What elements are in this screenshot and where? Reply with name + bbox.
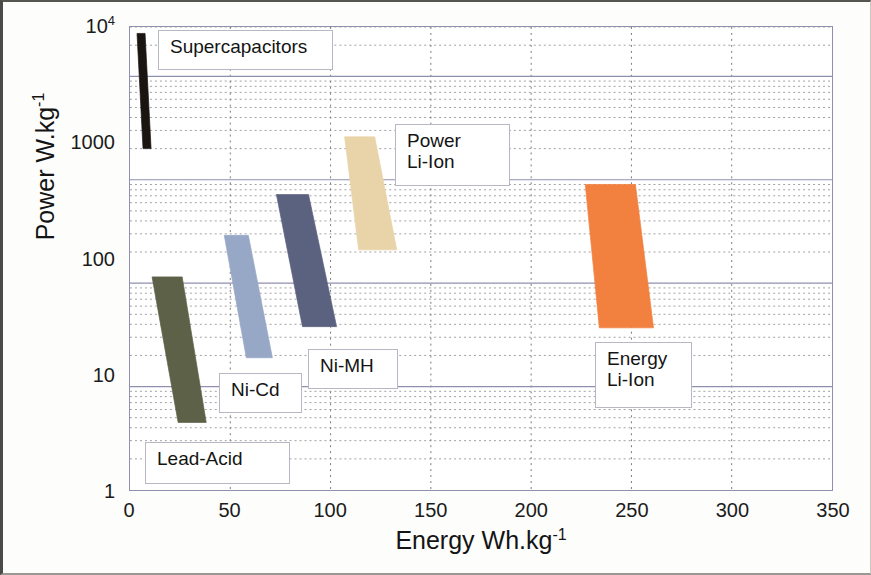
y-tick-10: 10 [93,365,115,385]
band-lead-acid [152,277,206,423]
band-power-li-ion [345,137,397,250]
x-tick-150: 150 [414,499,447,522]
plot-area [129,26,833,491]
y-axis-title: Power W.kg-1 [31,37,60,297]
callout-energy-li-ion[interactable]: Energy Li-Ion [595,342,692,408]
y-tick-10000: 104 [86,16,115,36]
x-tick-300: 300 [716,499,749,522]
x-tick-200: 200 [515,499,548,522]
x-tick-100: 100 [313,499,346,522]
y-axis-tick-labels: 104 1000 100 10 1 [3,26,129,491]
figure-container: 104 1000 100 10 1 Power W.kg-1 Supercapa… [0,0,871,575]
callout-supercapacitors[interactable]: Supercapacitors [158,30,333,70]
x-tick-250: 250 [615,499,648,522]
y-tick-1000: 1000 [71,132,116,152]
x-tick-50: 50 [218,499,240,522]
band-energy-li-ion [585,184,653,327]
callout-power-li-ion[interactable]: Power Li-Ion [395,124,510,186]
band-supercapacitors [137,33,151,148]
callout-ni-mh[interactable]: Ni-MH [308,349,398,389]
callout-ni-cd[interactable]: Ni-Cd [219,373,302,413]
band-ni-mh [276,195,336,327]
callout-lead-acid[interactable]: Lead-Acid [145,442,290,484]
data-bands [130,27,832,490]
x-axis-title: Energy Wh.kg-1 [129,526,833,555]
band-ni-cd [224,235,272,357]
x-tick-0: 0 [123,499,134,522]
x-axis-tick-labels: 0 50 100 150 200 250 300 350 [129,491,833,531]
y-tick-100: 100 [82,249,115,269]
x-tick-350: 350 [816,499,849,522]
y-tick-1: 1 [104,481,115,501]
